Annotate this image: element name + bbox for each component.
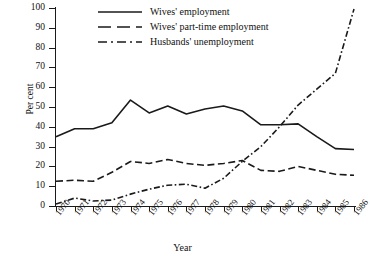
y-tick-label: 90 [19, 23, 45, 33]
x-axis-title: Year [0, 242, 365, 253]
y-tick [49, 87, 56, 88]
y-tick [49, 48, 56, 49]
y-tick-label: 80 [19, 43, 45, 53]
y-axis-title: Per cent [25, 59, 35, 139]
series-line-2 [56, 9, 354, 204]
y-tick [49, 107, 56, 108]
y-tick [49, 28, 56, 29]
y-tick-label: 100 [19, 3, 45, 13]
y-tick [49, 166, 56, 167]
y-tick [49, 67, 56, 68]
y-tick-label: 30 [19, 142, 45, 152]
series-line-1 [56, 159, 354, 181]
y-tick-label: 10 [19, 181, 45, 191]
plot-area [56, 8, 355, 206]
series-line-0 [56, 100, 354, 150]
y-tick-label: 20 [19, 161, 45, 171]
y-tick [49, 127, 56, 128]
y-tick [49, 206, 56, 207]
series-canvas [56, 8, 355, 206]
y-tick [49, 147, 56, 148]
y-tick [49, 8, 56, 9]
y-tick [49, 186, 56, 187]
y-tick-label: 0 [19, 201, 45, 211]
